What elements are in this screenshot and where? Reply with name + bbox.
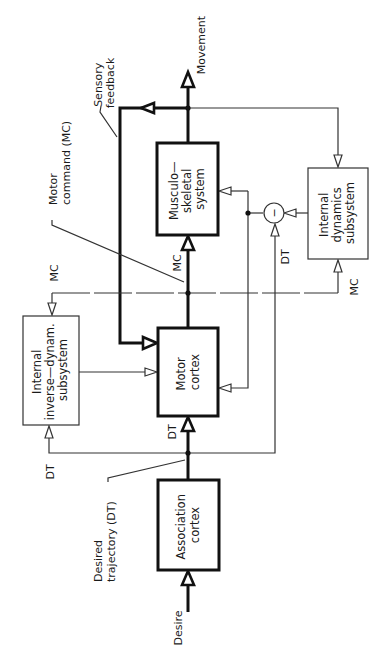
mc-to-dynamics-arrow-icon bbox=[334, 260, 342, 272]
dt-arrow-icon bbox=[182, 417, 194, 431]
mc-label-dynamics: MC bbox=[348, 278, 361, 295]
sensory-feedback-into-motor-arrow-icon bbox=[143, 337, 157, 349]
error-to-musculo-arrow-icon bbox=[219, 187, 231, 195]
mc-arrow-icon bbox=[182, 236, 194, 250]
movement-to-dynamics-arrow-icon bbox=[334, 155, 342, 167]
dt-junction-dot bbox=[185, 450, 190, 455]
motor-cortex-label: Motor cortex bbox=[174, 354, 202, 391]
desire-label: Desire bbox=[172, 610, 185, 645]
comparator-symbol: − bbox=[268, 208, 281, 217]
block-diagram: − Association cortex Motor cortex Muscul… bbox=[0, 0, 374, 655]
error-signal-line bbox=[230, 191, 248, 388]
dynamics-to-comparator-arrow-icon bbox=[284, 209, 296, 217]
dt-label-comparator: DT bbox=[279, 249, 292, 264]
movement-label: Movement bbox=[195, 15, 208, 74]
sensory-feedback-leader bbox=[100, 106, 117, 137]
desire-arrow-icon bbox=[182, 571, 194, 585]
desired-trajectory-label: Desired trajectory (DT) bbox=[92, 501, 118, 582]
internal-dynamics-label: Internal dynamics subsystem bbox=[317, 182, 357, 244]
sensory-feedback-arrow-icon bbox=[141, 103, 154, 113]
dt-label-inverse: DT bbox=[44, 464, 57, 479]
mc-label-main: MC bbox=[171, 254, 184, 271]
inverse-to-motor-arrow-icon bbox=[145, 368, 157, 376]
dt-to-inverse-arrow-icon bbox=[45, 426, 53, 438]
mc-to-inverse-arrow-icon bbox=[48, 303, 56, 315]
movement-arrow-icon bbox=[182, 72, 194, 87]
dt-to-comparator-arrow-icon bbox=[271, 224, 279, 236]
dt-label-main: DT bbox=[166, 424, 179, 439]
error-to-motor-arrow-icon bbox=[219, 384, 231, 392]
mc-label-inverse: MC bbox=[48, 264, 61, 281]
sensory-feedback-label: Sensory feedback bbox=[92, 57, 117, 108]
error-junction-dot bbox=[245, 210, 250, 215]
mc-junction-dot bbox=[185, 290, 190, 295]
motor-command-label: Motor command (MC) bbox=[47, 121, 73, 205]
movement-junction-dot bbox=[185, 105, 190, 110]
